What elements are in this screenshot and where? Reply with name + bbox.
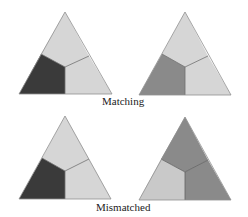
triangle-top-right: [139, 12, 231, 95]
triangle-bottom-left: [19, 116, 111, 199]
label-matching: Matching: [102, 95, 144, 107]
triangle-diagram: [0, 0, 248, 217]
label-mismatched: Mismatched: [96, 201, 150, 213]
triangle-top-left: [19, 12, 112, 94]
triangle-bottom-right: [139, 117, 231, 200]
